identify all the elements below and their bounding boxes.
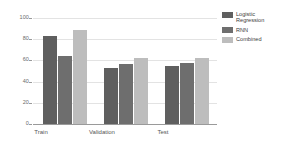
plot-area	[33, 18, 217, 124]
y-tick-mark-80	[29, 39, 32, 40]
legend-swatch-icon-combined	[222, 37, 233, 43]
bar-group-train	[41, 18, 88, 124]
bar-test-rnn	[180, 63, 194, 124]
x-label-validation: Validation	[72, 129, 132, 136]
legend: Logistic Regression RNN Combined	[222, 11, 282, 46]
legend-item-logistic-regression: Logistic Regression	[222, 11, 282, 24]
legend-label-combined: Combined	[236, 36, 262, 42]
y-tick-label-40: 40	[3, 79, 29, 85]
y-tick-mark-100	[29, 18, 32, 19]
x-axis-line	[33, 124, 217, 125]
legend-item-rnn: RNN	[222, 27, 282, 34]
y-tick-mark-0	[29, 124, 32, 125]
bar-validation-combined	[134, 58, 148, 124]
bar-group-validation	[102, 18, 149, 124]
legend-item-combined: Combined	[222, 36, 282, 43]
y-tick-label-0: 0	[3, 121, 29, 127]
y-tick-label-100: 100	[3, 15, 29, 21]
x-label-train: Train	[11, 129, 71, 136]
legend-swatch-icon-logistic-regression	[222, 12, 233, 18]
x-label-test: Test	[133, 129, 193, 136]
y-axis: 100 80 60 40 20 0	[0, 18, 29, 124]
y-tick-mark-40	[29, 82, 32, 83]
bar-test-combined	[195, 58, 209, 124]
bar-train-combined	[73, 30, 87, 124]
legend-swatch-icon-rnn	[222, 27, 233, 33]
y-tick-mark-20	[29, 103, 32, 104]
bar-test-logistic-regression	[165, 66, 179, 124]
bar-train-logistic-regression	[43, 36, 57, 124]
bar-group-test	[163, 18, 210, 124]
bar-validation-logistic-regression	[104, 68, 118, 124]
legend-label-logistic-regression: Logistic Regression	[236, 11, 280, 24]
y-tick-label-20: 20	[3, 100, 29, 106]
bar-train-rnn	[58, 56, 72, 124]
y-tick-label-80: 80	[3, 36, 29, 42]
y-tick-label-60: 60	[3, 57, 29, 63]
bar-chart: 100 80 60 40 20 0	[0, 0, 283, 156]
legend-label-rnn: RNN	[236, 27, 248, 33]
y-tick-mark-60	[29, 60, 32, 61]
bar-validation-rnn	[119, 64, 133, 124]
